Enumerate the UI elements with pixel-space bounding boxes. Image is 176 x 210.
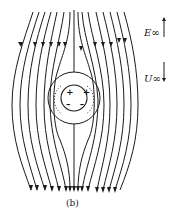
u-infinity-label: U∞ xyxy=(144,73,161,84)
negative-charges-label: – – xyxy=(66,99,87,109)
figure-caption: (b) xyxy=(66,198,79,208)
positive-charges-label: + + xyxy=(66,87,93,97)
field-line-left-1 xyxy=(12,12,33,190)
field-line-left-5 xyxy=(44,12,59,190)
field-line-diagram: + + – – E∞ U∞ (b) xyxy=(0,0,176,210)
e-infinity-label: E∞ xyxy=(144,27,160,38)
